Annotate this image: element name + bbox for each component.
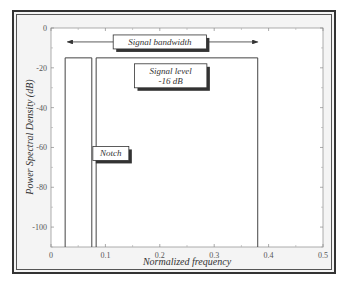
y-tick-label: -40 bbox=[36, 104, 47, 113]
y-tick-label: 0 bbox=[43, 24, 47, 33]
psd-chart: 00.10.20.30.40.5 0-20-40-60-80-100 Signa… bbox=[0, 0, 352, 291]
notch-label-text: Notch bbox=[99, 148, 122, 158]
signal-level-label-text: Signal level bbox=[150, 66, 193, 76]
y-tick-label: -100 bbox=[32, 223, 47, 232]
x-axis-label: Normalized frequency bbox=[142, 256, 232, 267]
x-tick-label: 0.5 bbox=[318, 251, 328, 260]
x-tick-label: 0.1 bbox=[100, 251, 110, 260]
y-tick-label: -20 bbox=[36, 64, 47, 73]
x-tick-label: 0 bbox=[49, 251, 53, 260]
bandwidth-label-text: Signal bandwidth bbox=[128, 37, 192, 47]
y-tick-label: -60 bbox=[36, 143, 47, 152]
y-axis-label: Power Spectral Density (dB) bbox=[24, 79, 36, 196]
y-tick-label: -80 bbox=[36, 183, 47, 192]
signal-level-label-text: -16 dB bbox=[159, 76, 184, 86]
x-tick-label: 0.4 bbox=[264, 251, 274, 260]
